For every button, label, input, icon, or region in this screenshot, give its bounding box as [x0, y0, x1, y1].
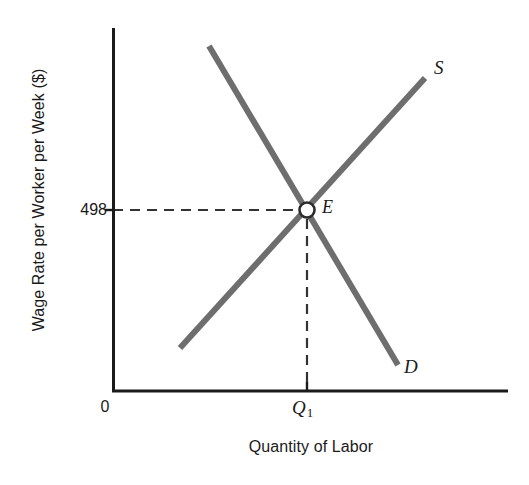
plot-area [0, 0, 529, 485]
equilibrium-point-marker [300, 203, 315, 218]
y-axis-title: Wage Rate per Worker per Week ($) [26, 0, 52, 410]
q1-base: Q [292, 397, 306, 418]
equilibrium-point-label: E [322, 197, 333, 218]
x-axis-title: Quantity of Labor [113, 438, 509, 456]
demand-curve-label: D [404, 356, 418, 378]
supply-curve-label: S [434, 57, 444, 79]
supply-demand-figure: Wage Rate per Worker per Week ($) Quanti… [0, 0, 529, 485]
x-axis-tick-label-q1: Q1 [292, 397, 313, 421]
y-axis-tick-label-498: 498 [63, 201, 107, 219]
origin-label: 0 [96, 398, 114, 416]
q1-subscript: 1 [306, 405, 314, 420]
